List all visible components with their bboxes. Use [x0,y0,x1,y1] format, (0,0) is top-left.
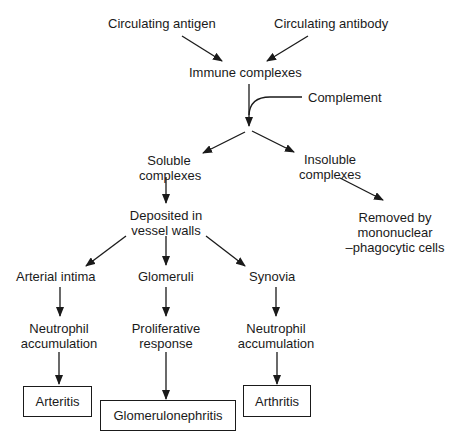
deposited-line1: Deposited in [125,208,207,223]
removed-line3: –phagocytic cells [342,240,448,255]
neutrophil1-line2: accumulation [18,336,100,351]
removed-line1: Removed by [342,210,448,225]
node-neutrophil-accumulation-1: Neutrophil accumulation [18,321,100,351]
proliferative-line1: Proliferative [128,321,204,336]
insoluble-line2: complexes [297,167,363,182]
soluble-line1: Soluble [139,153,199,168]
node-synovia: Synovia [249,269,295,284]
deposited-line2: vessel walls [125,223,207,238]
outcome-arteritis-box: Arteritis [23,386,92,417]
node-deposited-in-vessel-walls: Deposited in vessel walls [125,208,207,238]
node-insoluble-complexes: Insoluble complexes [297,152,363,182]
node-arterial-intima: Arterial intima [16,269,95,284]
neutrophil1-line1: Neutrophil [18,321,100,336]
node-proliferative-response: Proliferative response [128,321,204,351]
node-neutrophil-accumulation-2: Neutrophil accumulation [234,321,318,351]
node-immune-complexes: Immune complexes [189,65,302,80]
node-glomeruli: Glomeruli [138,269,194,284]
soluble-line2: complexes [139,168,199,183]
neutrophil2-line2: accumulation [234,336,318,351]
node-circulating-antigen: Circulating antigen [108,16,216,31]
removed-line2: mononuclear [342,225,448,240]
insoluble-line1: Insoluble [297,152,363,167]
proliferative-line2: response [128,336,204,351]
node-soluble-complexes: Soluble complexes [139,153,199,183]
outcome-glomerulonephritis-box: Glomerulonephritis [100,400,236,431]
outcome-arthritis-box: Arthritis [243,385,311,417]
node-circulating-antibody: Circulating antibody [274,16,388,31]
neutrophil2-line1: Neutrophil [234,321,318,336]
node-removed-by-mononuclear: Removed by mononuclear –phagocytic cells [342,210,448,255]
node-complement: Complement [308,90,382,105]
